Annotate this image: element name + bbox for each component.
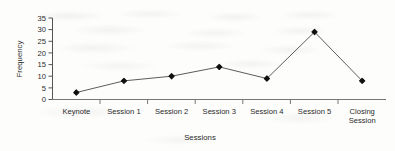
x-category-label-1: Session 1: [107, 107, 140, 116]
x-category-label-6: ClosingSession: [349, 107, 376, 125]
x-axis-category-labels: KeynoteSession 1Session 2Session 3Sessio…: [62, 107, 375, 125]
x-category-label-0: Keynote: [62, 107, 90, 116]
y-axis-tick-labels: 0 5 10 15 20 25 30 35: [38, 14, 46, 105]
y-tick-label-25: 25: [38, 37, 46, 46]
y-tick-label-0: 0: [42, 95, 46, 104]
y-tick-label-30: 30: [38, 25, 46, 34]
y-axis-title: Frequency: [15, 40, 24, 77]
frequency-data-line: [76, 32, 362, 93]
frequency-by-session-line-chart: 0 5 10 15 20 25 30 35 KeynoteSession 1Se…: [0, 0, 395, 151]
y-tick-label-5: 5: [42, 84, 46, 93]
y-tick-label-20: 20: [38, 49, 46, 58]
chart-plot-area: 0 5 10 15 20 25 30 35 KeynoteSession 1Se…: [0, 0, 395, 151]
x-category-label-5: Session 5: [298, 107, 331, 116]
x-category-label-4: Session 4: [250, 107, 283, 116]
y-tick-label-10: 10: [38, 72, 46, 81]
data-point-3: [217, 64, 222, 69]
y-axis-ticks: [49, 18, 53, 100]
y-tick-label-15: 15: [38, 60, 46, 69]
data-point-2: [169, 74, 174, 79]
x-axis-category-separators: [100, 100, 338, 105]
x-category-label-2: Session 2: [155, 107, 188, 116]
data-point-0: [74, 90, 79, 95]
data-point-1: [121, 78, 126, 83]
x-category-label-3: Session 3: [203, 107, 236, 116]
x-axis-title: Sessions: [184, 133, 216, 142]
y-tick-label-35: 35: [38, 14, 46, 23]
